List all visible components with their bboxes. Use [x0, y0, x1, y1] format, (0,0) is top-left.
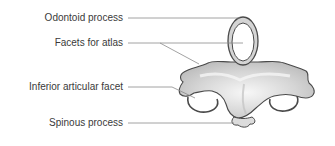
odontoid-process: [228, 17, 258, 65]
label-odontoid-process: Odontoid process: [45, 12, 123, 24]
spinous-process: [232, 117, 255, 127]
inferior-facet-right: [270, 96, 298, 111]
label-spinous-process: Spinous process: [49, 117, 123, 129]
inferior-facet-left: [188, 97, 218, 112]
anatomy-diagram: Odontoid process Facets for atlas Inferi…: [0, 0, 335, 146]
label-facets-for-atlas: Facets for atlas: [55, 37, 123, 49]
leader-line-facets-branch: [160, 43, 199, 64]
label-inferior-articular-facet: Inferior articular facet: [29, 81, 123, 93]
